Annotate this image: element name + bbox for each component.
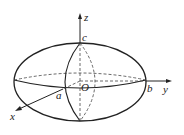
c-label: c <box>82 31 87 43</box>
x-label: x <box>9 110 15 122</box>
origin-label: O <box>81 81 89 93</box>
z-arrow-icon <box>78 13 82 19</box>
a-label: a <box>56 89 62 101</box>
y-label: y <box>162 83 168 95</box>
b-label: b <box>147 82 153 94</box>
x-arrow-icon <box>15 106 22 111</box>
z-label: z <box>83 11 89 23</box>
ellipsoid-diagram: z c O a b y x <box>0 0 184 135</box>
